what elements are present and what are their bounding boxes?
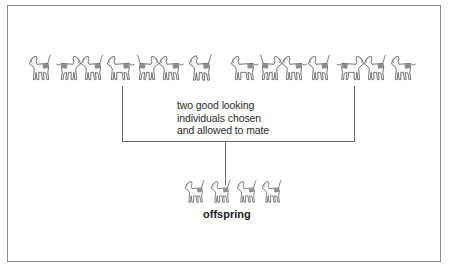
dog-icon — [133, 52, 160, 82]
dog-icon — [307, 52, 334, 82]
dog-icon — [184, 52, 220, 82]
dog-icon — [338, 52, 365, 82]
caption-line-1: two good looking — [177, 99, 269, 112]
dog-icon — [261, 177, 285, 205]
connector-right-vertical — [354, 86, 355, 142]
dog-icon — [281, 52, 308, 82]
dog-icon — [390, 52, 417, 82]
dog-icon — [158, 52, 185, 82]
dog-icon — [28, 52, 55, 82]
caption-line-2: individuals chosen — [177, 112, 269, 125]
offspring-label: offspring — [203, 208, 251, 220]
selection-caption: two good looking individuals chosen and … — [177, 99, 269, 137]
dog-icon — [184, 177, 208, 205]
dog-icon — [363, 52, 390, 82]
connector-left-vertical — [122, 86, 123, 142]
connector-horizontal — [122, 141, 355, 142]
dog-icon — [230, 52, 257, 82]
dog-icon — [210, 177, 234, 205]
dog-icon — [55, 52, 82, 82]
caption-line-3: and allowed to mate — [177, 124, 269, 137]
dog-icon — [106, 52, 133, 82]
dog-icon — [236, 177, 260, 205]
dog-icon — [80, 52, 107, 82]
dog-icon — [256, 52, 283, 82]
